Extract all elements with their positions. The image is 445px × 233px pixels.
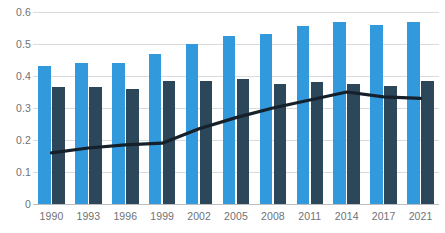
y-axis-tick-label: 0.6: [3, 6, 31, 18]
x-axis-tick-label: 2014: [335, 210, 359, 222]
x-axis-tick-label: 2008: [261, 210, 285, 222]
bar-series-1-2017: [370, 25, 383, 204]
bar-series-2-2014: [347, 84, 360, 204]
y-axis-tick-label: 0.3: [3, 102, 31, 114]
bar-series-2-2017: [384, 86, 397, 204]
bar-series-2-2002: [200, 81, 213, 204]
x-axis-tick-label: 2017: [372, 210, 396, 222]
x-axis-tick-label: 2005: [224, 210, 248, 222]
x-axis-tick-label: 1996: [113, 210, 137, 222]
bar-series-1-1993: [75, 63, 88, 204]
x-axis-tick-label: 1990: [40, 210, 64, 222]
bar-series-2-1990: [52, 87, 65, 204]
y-axis-tick-label: 0.4: [3, 70, 31, 82]
chart-container: 00.10.20.30.40.50.6 19901993199619992002…: [0, 0, 445, 233]
bar-series-2-2008: [274, 84, 287, 204]
x-axis-tick-label: 2011: [298, 210, 321, 222]
x-axis-tick-label: 1993: [76, 210, 100, 222]
bar-series-1-2002: [186, 44, 199, 204]
gridline: [33, 204, 439, 205]
bar-series-2-2021: [421, 81, 434, 204]
y-axis: 00.10.20.30.40.50.6: [0, 12, 31, 204]
bar-series-2-2011: [311, 82, 324, 204]
gridline: [33, 12, 439, 13]
bar-series-1-2011: [297, 26, 310, 204]
plot-area: [33, 12, 439, 204]
y-axis-tick-label: 0.2: [3, 134, 31, 146]
x-axis-tick-label: 2021: [409, 210, 433, 222]
x-axis-tick-label: 1999: [150, 210, 174, 222]
x-axis-tick-label: 2002: [187, 210, 211, 222]
bar-series-2-1999: [163, 81, 176, 204]
bar-series-1-1990: [38, 66, 51, 204]
y-axis-tick-label: 0.1: [3, 166, 31, 178]
bar-series-2-1996: [126, 89, 139, 204]
x-axis: 1990199319961999200220052008201120142017…: [33, 206, 439, 230]
bar-series-2-2005: [237, 79, 250, 204]
bar-series-1-1999: [149, 54, 162, 204]
bar-series-1-2005: [223, 36, 236, 204]
bar-series-1-1996: [112, 63, 125, 204]
y-axis-tick-label: 0.5: [3, 38, 31, 50]
bar-series-1-2014: [333, 22, 346, 204]
bar-series-2-1993: [89, 87, 102, 204]
y-axis-tick-label: 0: [3, 198, 31, 210]
bar-series-1-2021: [407, 22, 420, 204]
bar-series-1-2008: [260, 34, 273, 204]
